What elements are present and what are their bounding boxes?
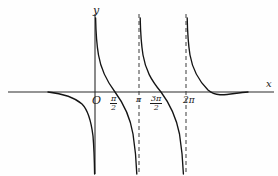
y-axis-label: y: [93, 5, 99, 16]
x-axis-label: x: [266, 79, 272, 89]
origin-label: O: [92, 95, 101, 106]
tick-label-three-pi-over-2: 3π 2: [150, 95, 162, 113]
curve-branch-neg-pi-to-zero: [48, 92, 95, 174]
tick-label-pi: π: [136, 96, 141, 104]
tick-label-pi-over-2: π 2: [110, 95, 117, 113]
tick-pi-over-2-denominator: 2: [111, 104, 116, 112]
curve-branch-two-pi-to-three-pi: [187, 18, 248, 95]
tick-label-two-pi: 2π: [183, 96, 195, 105]
plot-area: [0, 0, 278, 176]
tick-three-pi-over-2-denominator: 2: [154, 104, 159, 112]
cotangent-graph-figure: O π 2 π 3π 2 2π x y: [0, 0, 278, 176]
